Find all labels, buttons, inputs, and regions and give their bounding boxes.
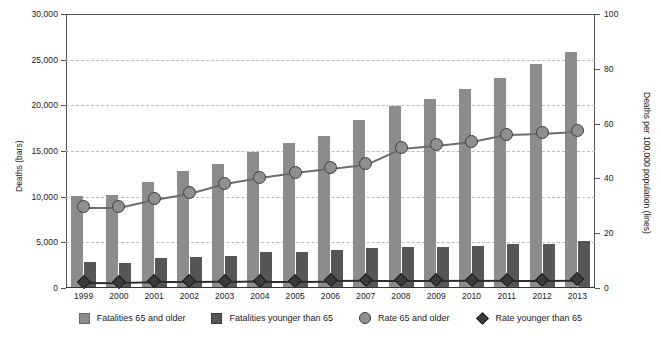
- circle-marker-2005: [289, 166, 302, 179]
- gridline: [66, 151, 595, 152]
- legend-label: Rate 65 and older: [378, 313, 450, 323]
- x-axis-tick-label-2009: 2009: [419, 291, 454, 301]
- y2-axis-tick-mark: [595, 233, 600, 234]
- y2-axis-tick-mark: [595, 288, 600, 289]
- y2-axis-tick-label: 60: [604, 120, 614, 129]
- x-axis-tick-label-2010: 2010: [454, 291, 489, 301]
- legend-item-1[interactable]: Fatalities younger than 65: [211, 313, 333, 324]
- circle-marker-2004: [253, 171, 266, 184]
- bar-2011-older: [494, 78, 506, 288]
- bar-2012-older: [530, 64, 542, 288]
- x-axis-tick-label-2001: 2001: [137, 291, 172, 301]
- x-axis-tick-label-2002: 2002: [172, 291, 207, 301]
- x-axis-tick-label-2013: 2013: [560, 291, 595, 301]
- square-light-gray-icon: [79, 313, 90, 324]
- chart-legend: Fatalities 65 and olderFatalities younge…: [0, 312, 661, 324]
- y2-axis-tick-mark: [595, 69, 600, 70]
- x-axis-tick-label-2008: 2008: [383, 291, 418, 301]
- bar-2008-older: [389, 106, 401, 288]
- x-axis-tick-label-2006: 2006: [313, 291, 348, 301]
- x-axis-baseline: [66, 287, 595, 288]
- y2-axis-tick-mark: [595, 14, 600, 15]
- x-axis-tick-label-2012: 2012: [524, 291, 559, 301]
- square-dark-gray-icon: [211, 313, 222, 324]
- x-axis-tick-label-2000: 2000: [101, 291, 136, 301]
- circle-marker-2010: [465, 135, 478, 148]
- bar-2010-older: [459, 89, 471, 288]
- y2-axis-tick-mark: [595, 124, 600, 125]
- y-axis-tick-mark: [61, 288, 66, 289]
- bar-2013-older: [565, 52, 577, 288]
- x-axis-tick-label-2007: 2007: [348, 291, 383, 301]
- y2-axis-tick-label: 80: [604, 65, 614, 74]
- bar-2009-older: [424, 99, 436, 288]
- circle-marker-2011: [500, 128, 513, 141]
- legend-item-0[interactable]: Fatalities 65 and older: [79, 313, 186, 324]
- y-axis-tick-label: 0: [0, 284, 58, 293]
- diamond-dark-icon: [476, 312, 489, 325]
- circle-gray-icon: [359, 312, 371, 324]
- y2-axis-tick-label: 100: [604, 10, 618, 19]
- y-axis-tick-label: 10,000: [0, 193, 58, 202]
- legend-label: Fatalities younger than 65: [229, 313, 333, 323]
- y-axis-tick-label: 25,000: [0, 56, 58, 65]
- chart-container: Deaths (bars) Deaths per 100,000 populat…: [0, 0, 661, 338]
- x-axis-tick-label-2003: 2003: [207, 291, 242, 301]
- x-axis-tick-label-1999: 1999: [66, 291, 101, 301]
- plot-area: [66, 14, 595, 288]
- x-axis-tick-label-2011: 2011: [489, 291, 524, 301]
- circle-marker-2012: [536, 126, 549, 139]
- y-axis-tick-label: 5,000: [0, 238, 58, 247]
- bar-2005-older: [283, 143, 295, 288]
- y2-axis-tick-label: 40: [604, 174, 614, 183]
- legend-label: Fatalities 65 and older: [97, 313, 186, 323]
- legend-label: Rate younger than 65: [496, 313, 583, 323]
- bar-2006-older: [318, 136, 330, 288]
- y2-axis-tick-label: 20: [604, 229, 614, 238]
- legend-item-3[interactable]: Rate younger than 65: [476, 313, 583, 323]
- x-axis-labels: 1999200020012002200320042005200620072008…: [66, 291, 595, 305]
- y-axis-tick-label: 20,000: [0, 101, 58, 110]
- circle-marker-2008: [395, 141, 408, 154]
- circle-marker-2003: [218, 177, 231, 190]
- y-axis-tick-label: 15,000: [0, 147, 58, 156]
- bar-2007-older: [353, 120, 365, 288]
- gridline: [66, 60, 595, 61]
- y2-axis-tick-mark: [595, 178, 600, 179]
- y2-axis-tick-label: 0: [604, 284, 609, 293]
- gridline: [66, 105, 595, 106]
- y-axis-tick-label: 30,000: [0, 10, 58, 19]
- x-axis-tick-label-2004: 2004: [242, 291, 277, 301]
- legend-item-2[interactable]: Rate 65 and older: [359, 312, 450, 324]
- x-axis-tick-label-2005: 2005: [278, 291, 313, 301]
- y2-axis-title: Deaths per 100,000 population (lines): [642, 92, 652, 234]
